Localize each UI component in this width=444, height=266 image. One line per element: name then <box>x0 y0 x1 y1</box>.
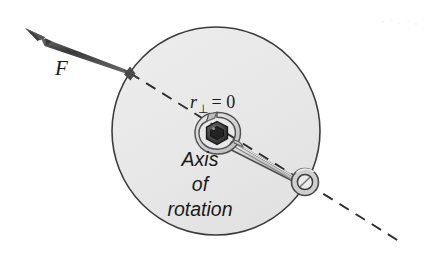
hex-bolt-highlight <box>212 127 215 130</box>
torque-diagram-figure: F r⊥= 0 Axis of rotation <box>0 0 444 266</box>
scan-artifacts <box>382 19 417 25</box>
axis-caption-line-1: Axis <box>130 147 270 172</box>
moment-arm-variable: r <box>190 92 197 112</box>
axis-of-rotation-caption: Axis of rotation <box>130 147 270 221</box>
axis-caption-line-3: rotation <box>130 197 270 222</box>
diagram-canvas <box>0 0 444 266</box>
wrench-box-end <box>292 169 319 196</box>
moment-arm-label: r⊥= 0 <box>190 93 235 115</box>
force-vector <box>25 28 137 81</box>
force-vector-label: F <box>55 58 68 79</box>
perpendicular-symbol: ⊥ <box>197 102 208 116</box>
axis-caption-line-2: of <box>130 172 270 197</box>
moment-arm-value: = 0 <box>208 92 236 112</box>
